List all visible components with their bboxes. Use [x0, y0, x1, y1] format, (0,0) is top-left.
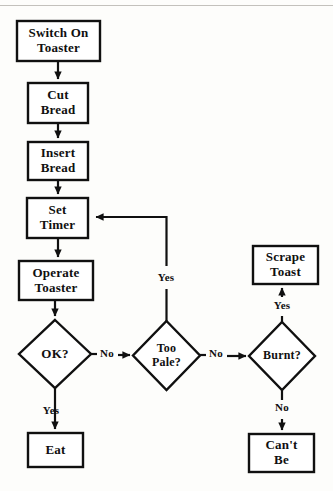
- node-scrape-toast[interactable]: [253, 246, 318, 284]
- edge-label-burnt-yes: Yes: [267, 299, 297, 311]
- node-burnt-decision[interactable]: [249, 322, 315, 390]
- flowchart-canvas: Too Pale? --> Eat --> back up and left i…: [0, 0, 333, 491]
- node-set-timer[interactable]: [27, 198, 88, 238]
- edge-label-burnt-no: No: [271, 401, 293, 413]
- edge-label-too-pale-no: No: [205, 347, 227, 359]
- edge-too-pale-yes-to-set-timer-upper: [96, 217, 167, 266]
- edge-label-ok-no: No: [96, 347, 118, 359]
- node-cant-be[interactable]: [249, 434, 314, 472]
- edge-label-too-pale-yes: Yes: [151, 271, 181, 283]
- node-cut-bread[interactable]: [28, 83, 88, 123]
- node-insert-bread[interactable]: [28, 142, 88, 180]
- flowchart-graphics: Too Pale? --> Eat --> back up and left i…: [0, 0, 333, 491]
- node-eat[interactable]: [28, 433, 83, 467]
- node-too-pale-decision[interactable]: [133, 321, 200, 390]
- node-ok-decision[interactable]: [19, 320, 91, 388]
- node-operate-toaster[interactable]: [19, 261, 93, 300]
- edge-label-ok-yes: Yes: [36, 404, 66, 416]
- node-switch-on-toaster[interactable]: [17, 21, 100, 61]
